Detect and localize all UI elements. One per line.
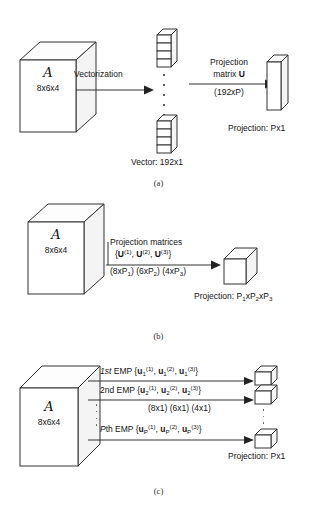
panel-a-vector-stack-top — [155, 27, 181, 71]
panel-a-arrow-vectorization — [76, 84, 154, 96]
panel-b: A 8x6x4 Projection matrices {U(1), U(2),… — [0, 196, 317, 346]
panel-a-projection-matrix-line2: matrix U — [190, 70, 268, 80]
panel-a-projection-slab — [265, 52, 293, 116]
panel-b-projection-matrices-set: {U(1), U(2), U(3)} — [115, 250, 171, 260]
panel-b-tensor-dims: 8x6x4 — [28, 246, 84, 256]
panel-b-tensor-symbol: A — [28, 228, 84, 243]
ellipsis-dot — [163, 104, 165, 106]
ellipsis-dot — [163, 94, 165, 96]
row2-emp: EMP — [117, 385, 135, 395]
slab-svg — [265, 52, 293, 116]
arrow-svg — [88, 435, 254, 445]
panel-a-caption: (a) — [0, 178, 317, 188]
panel-b-output-cube — [222, 246, 260, 288]
panel-a-projection-label: Projection: Px1 — [228, 124, 285, 134]
panel-a-vectorization-label: Vectorization — [74, 70, 123, 80]
panel-a-arrow-projection — [189, 80, 275, 92]
panel-c-output-cube-3 — [253, 428, 279, 450]
panel-c-tensor-symbol: A — [20, 400, 78, 415]
ellipsis-dot — [96, 404, 98, 406]
panel-a-vector-label: Vector: 192x1 — [131, 158, 183, 168]
panel-a: A 8x6x4 Vectorization — [0, 0, 317, 195]
row2-prefix: 2nd — [100, 385, 114, 395]
ellipsis-dot — [263, 409, 265, 411]
row1-prefix: 1st — [100, 366, 111, 376]
panel-c-dims-label: (8x1) (6x1) (4x1) — [148, 404, 211, 414]
panel-c-rows-ellipsis — [95, 404, 98, 426]
cube-svg — [253, 428, 279, 450]
ellipsis-dot — [96, 411, 98, 413]
ellipsis-dot — [163, 74, 165, 76]
ellipsis-dot — [96, 418, 98, 420]
panel-c-row3-label: Pth EMP {uP(1), uP(2), uP(3)} — [100, 425, 202, 435]
panel-b-caption: (b) — [0, 331, 317, 341]
ellipsis-dot — [163, 84, 165, 86]
panel-b-projection-dims: (8xP1) (6xP2) (4xP3) — [110, 267, 186, 277]
panel-c-caption: (c) — [0, 486, 317, 496]
matrix-U-symbol: U — [239, 69, 245, 79]
panel-a-vector-ellipsis — [162, 74, 166, 116]
ellipsis-dot — [96, 424, 98, 426]
panel-c-projection-label: Projection: Px1 — [228, 452, 285, 462]
panel-c: A 8x6x4 1st EMP {u1(1), u1(2), u1(3)} 2n… — [0, 352, 317, 516]
cube-svg — [222, 246, 260, 288]
arrow-svg — [76, 84, 154, 96]
panel-a-tensor-dims: 8x6x4 — [20, 84, 76, 94]
cube-svg — [253, 384, 279, 406]
vector-cells-svg — [155, 27, 181, 71]
panel-a-projection-matrix-line1: Projection — [190, 58, 268, 68]
ellipsis-dot — [263, 422, 265, 424]
panel-b-projection-label: Projection: P1xP2xP3 — [194, 292, 272, 302]
panel-c-tensor-dims: 8x6x4 — [20, 418, 78, 428]
row1-emp: EMP — [114, 366, 132, 376]
panel-c-arrow-row3 — [88, 435, 254, 445]
panel-a-tensor-symbol: A — [20, 66, 76, 81]
arrow-svg — [189, 80, 275, 92]
panel-c-output-cube-2 — [253, 384, 279, 406]
panel-b-projection-matrices-title: Projection matrices — [110, 238, 182, 248]
panel-a-vector-stack-bottom — [155, 113, 181, 157]
ellipsis-dot — [263, 416, 265, 418]
row3-emp: th EMP — [106, 424, 134, 434]
U3-symbol: U — [155, 249, 161, 259]
vector-cells-svg — [155, 113, 181, 157]
